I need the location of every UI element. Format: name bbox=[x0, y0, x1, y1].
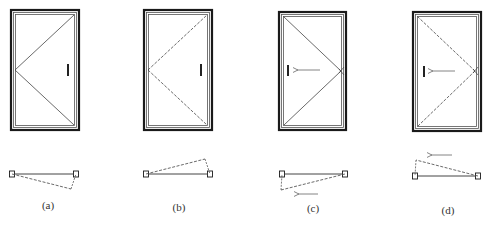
frame-inner-1 bbox=[282, 15, 344, 128]
door-plan bbox=[144, 159, 213, 177]
door-plan bbox=[10, 171, 79, 189]
frame-inner-2 bbox=[284, 17, 342, 126]
frame-inner-2 bbox=[149, 15, 208, 126]
figure-b: (b) bbox=[144, 10, 213, 214]
door-elevation bbox=[144, 10, 212, 130]
door-swing-diagram: (a) (b) (c) (d) bbox=[0, 0, 486, 227]
swing-line bbox=[418, 17, 475, 71]
figure-caption: (a) bbox=[42, 199, 55, 212]
frame-inner-2 bbox=[418, 17, 477, 127]
figure-c: (c) bbox=[279, 12, 348, 215]
figure-caption: (b) bbox=[173, 201, 186, 214]
open-leaf bbox=[416, 160, 478, 176]
door-elevation bbox=[11, 10, 79, 130]
swing-line bbox=[148, 15, 207, 70]
swing-closure bbox=[415, 160, 416, 176]
figure-caption: (c) bbox=[307, 202, 320, 215]
figure-d: (d) bbox=[413, 12, 482, 217]
door-elevation bbox=[413, 12, 481, 131]
door-elevation bbox=[279, 12, 346, 130]
frame-outer bbox=[279, 12, 346, 130]
open-leaf bbox=[281, 174, 345, 190]
door-plan bbox=[413, 155, 481, 179]
swing-line bbox=[284, 17, 341, 71]
figure-caption: (d) bbox=[442, 204, 455, 217]
swing-line bbox=[15, 15, 74, 70]
figure-a: (a) bbox=[10, 10, 80, 212]
door-plan bbox=[280, 171, 348, 194]
frame-inner-2 bbox=[16, 15, 75, 126]
open-leaf bbox=[146, 159, 205, 174]
swing-line bbox=[284, 71, 341, 125]
open-leaf bbox=[12, 174, 71, 189]
swing-closure bbox=[281, 174, 282, 190]
swing-line bbox=[418, 71, 475, 126]
swing-line bbox=[15, 70, 74, 125]
swing-line bbox=[148, 70, 207, 125]
